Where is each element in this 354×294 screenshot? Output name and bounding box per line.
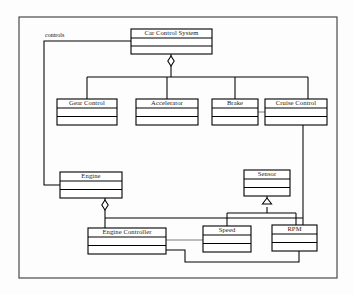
class-name-label: Engine	[81, 172, 100, 179]
class-box-layer: Car Control SystemGear ControlAccelerato…	[57, 29, 327, 254]
class-name-label: Gear Control	[69, 99, 105, 106]
aggregation-diamond-icon	[102, 200, 108, 210]
class-name-label: Cruise Control	[276, 99, 316, 106]
class-box-cruise_control[interactable]: Cruise Control	[265, 99, 327, 125]
diagram-canvas: Car Control SystemGear ControlAccelerato…	[0, 0, 354, 294]
class-box-sensor[interactable]: Sensor	[244, 170, 290, 196]
generalization-triangle-icon	[262, 198, 271, 204]
class-box-engine[interactable]: Engine	[60, 172, 122, 198]
edge-label-layer: controls	[45, 32, 65, 38]
class-box-gear_control[interactable]: Gear Control	[57, 99, 117, 125]
class-box-speed[interactable]: Speed	[203, 226, 251, 252]
class-name-label: Speed	[219, 226, 236, 233]
class-name-label: Sensor	[258, 170, 277, 177]
relationship-sensor-generalization	[227, 196, 296, 226]
relationship-ccs-aggregation-trunk	[87, 54, 308, 99]
relationship-layer	[44, 41, 308, 262]
class-box-brake[interactable]: Brake	[212, 99, 258, 125]
class-name-label: RPM	[287, 225, 301, 232]
class-box-car_control_system[interactable]: Car Control System	[131, 29, 212, 54]
class-name-label: Accelerator	[151, 99, 184, 106]
edge-label-controls: controls	[45, 32, 65, 38]
class-name-label: Engine Controller	[102, 228, 152, 235]
aggregation-diamond-icon	[168, 56, 174, 66]
class-box-rpm[interactable]: RPM	[272, 225, 317, 251]
class-box-engine_controller[interactable]: Engine Controller	[88, 228, 166, 254]
uml-class-diagram: Car Control SystemGear ControlAccelerato…	[0, 0, 354, 294]
class-box-accelerator[interactable]: Accelerator	[136, 99, 198, 125]
class-name-label: Brake	[227, 99, 243, 106]
class-name-label: Car Control System	[144, 29, 199, 36]
